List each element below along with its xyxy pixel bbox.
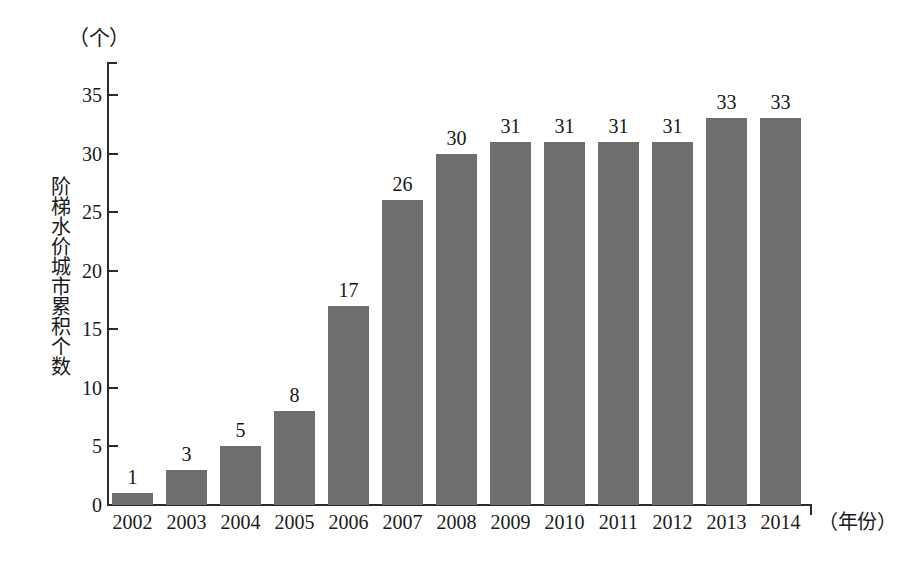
x-axis-tick-label: 2007 xyxy=(374,511,431,533)
y-axis-tick xyxy=(109,270,118,272)
bar xyxy=(652,142,693,505)
bar-value-label: 31 xyxy=(642,116,703,136)
y-axis-tick-label-text: 15 xyxy=(58,319,102,339)
bar xyxy=(328,306,369,505)
x-axis-unit-label: （年份） xyxy=(818,511,896,533)
bar xyxy=(382,200,423,505)
bar-value-label: 5 xyxy=(210,420,271,440)
y-axis-tick-label-text: 30 xyxy=(58,144,102,164)
bar-value-label: 3 xyxy=(156,444,217,464)
y-axis-tick-label-text: 35 xyxy=(58,85,102,105)
bar xyxy=(544,142,585,505)
x-axis-tick-label: 2010 xyxy=(536,511,593,533)
bar-value-label: 31 xyxy=(588,116,649,136)
x-axis-tick-label: 2014 xyxy=(752,511,809,533)
bar-value-label: 33 xyxy=(696,92,757,112)
x-axis-tick-label: 2008 xyxy=(428,511,485,533)
bar xyxy=(274,411,315,505)
bar-value-label: 1 xyxy=(102,467,163,487)
bar xyxy=(598,142,639,505)
x-axis-tick-label: 2013 xyxy=(698,511,755,533)
bar-value-label: 31 xyxy=(534,116,595,136)
bar-value-label: 31 xyxy=(480,116,541,136)
plot-area: 0510152025303512002320035200482005172006… xyxy=(0,0,922,564)
bar xyxy=(490,142,531,505)
x-axis-tick-label: 2006 xyxy=(320,511,377,533)
bar-value-label: 8 xyxy=(264,385,325,405)
y-axis-tick-label-text: 5 xyxy=(58,436,102,456)
y-axis-tick-label-text: 20 xyxy=(58,261,102,281)
bar-value-label: 33 xyxy=(750,92,811,112)
bar-value-label: 26 xyxy=(372,174,433,194)
y-axis-tick xyxy=(109,153,118,155)
y-axis-tick-label-text: 0 xyxy=(58,495,102,515)
y-axis-tick xyxy=(109,328,118,330)
bar-chart: （个） 阶梯水价城市累积个数 0510152025303512002320035… xyxy=(0,0,922,564)
bar xyxy=(166,470,207,505)
bar xyxy=(706,118,747,505)
bar-value-label: 17 xyxy=(318,280,379,300)
x-axis-tick-label: 2004 xyxy=(212,511,269,533)
bar xyxy=(436,154,477,505)
y-axis-tick xyxy=(109,387,118,389)
x-axis-tick-label: 2011 xyxy=(590,511,647,533)
y-axis-tick-label-text: 10 xyxy=(58,378,102,398)
bar-value-label: 30 xyxy=(426,128,487,148)
x-axis-tick-label: 2003 xyxy=(158,511,215,533)
y-axis-tick-label-text: 25 xyxy=(58,202,102,222)
y-axis-tick xyxy=(109,445,118,447)
bar xyxy=(220,446,261,505)
x-axis-tick-label: 2005 xyxy=(266,511,323,533)
y-axis-tick xyxy=(109,94,118,96)
y-axis-tick xyxy=(109,211,118,213)
x-axis-tick-label: 2002 xyxy=(104,511,161,533)
x-axis-tick-label: 2009 xyxy=(482,511,539,533)
bar xyxy=(112,493,153,505)
x-axis-tick-label: 2012 xyxy=(644,511,701,533)
bar xyxy=(760,118,801,505)
